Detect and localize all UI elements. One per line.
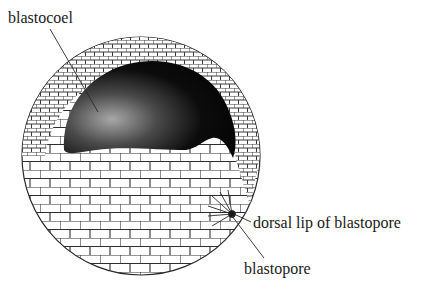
diagram-canvas: blastocoel dorsal lip of blastopore blas…: [0, 0, 446, 299]
label-dorsal-lip-of-blastopore: dorsal lip of blastopore: [253, 215, 401, 231]
label-blastopore: blastopore: [244, 261, 311, 277]
label-blastocoel: blastocoel: [8, 10, 73, 26]
gastrula-illustration: [0, 0, 446, 299]
embryo-sphere: [22, 37, 260, 275]
